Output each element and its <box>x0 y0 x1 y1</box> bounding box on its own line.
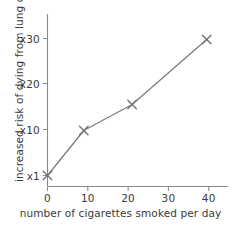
x-tick-label-20: 20 <box>121 192 135 204</box>
x-tick-label-10: 10 <box>81 192 95 204</box>
x-tick-label-40: 40 <box>202 192 216 204</box>
data-series-line <box>48 40 207 176</box>
x-tick-label-30: 30 <box>162 192 176 204</box>
data-point-marker-3 <box>202 35 211 44</box>
chart-container: x30 x20 x10 x1 0 10 20 30 40 number of c… <box>0 0 241 226</box>
data-point-marker-1 <box>80 126 89 135</box>
y-axis-title: increased risk of dying from lung cancer <box>13 0 25 182</box>
data-point-marker-2 <box>128 100 137 109</box>
x-tick-label-0: 0 <box>44 192 51 204</box>
x-axis-title: number of cigarettes smoked per day <box>0 207 241 219</box>
